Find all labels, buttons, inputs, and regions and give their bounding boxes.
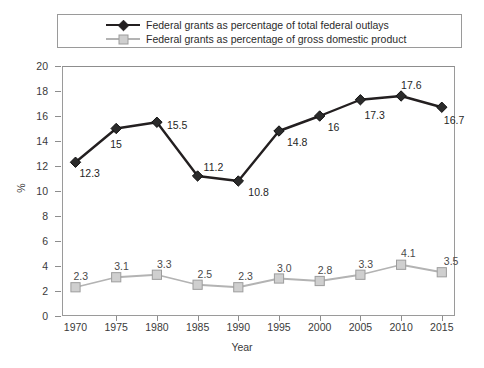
diamond-marker-icon bbox=[315, 111, 325, 121]
data-label: 3.1 bbox=[114, 261, 129, 272]
data-label: 12.3 bbox=[80, 168, 100, 179]
data-label: 10.8 bbox=[248, 187, 268, 198]
data-label: 2.5 bbox=[198, 269, 213, 280]
data-label: 3.3 bbox=[358, 259, 373, 270]
square-marker-icon bbox=[397, 260, 406, 269]
data-label: 17.6 bbox=[401, 80, 421, 91]
diamond-marker-icon bbox=[437, 102, 447, 112]
data-label: 2.3 bbox=[238, 271, 253, 282]
data-label: 14.8 bbox=[287, 137, 307, 148]
data-label: 16 bbox=[328, 122, 340, 133]
square-marker-icon bbox=[234, 283, 243, 292]
square-marker-icon bbox=[71, 283, 80, 292]
data-label: 16.7 bbox=[444, 115, 464, 126]
data-label: 3.3 bbox=[157, 259, 172, 270]
data-label: 11.2 bbox=[204, 162, 224, 173]
series-line bbox=[76, 96, 442, 181]
data-label: 15.5 bbox=[167, 120, 187, 131]
square-marker-icon bbox=[112, 273, 121, 282]
data-label: 3.0 bbox=[277, 263, 292, 274]
square-marker-icon bbox=[193, 280, 202, 289]
diamond-marker-icon bbox=[355, 95, 365, 105]
data-label: 2.8 bbox=[318, 265, 333, 276]
series-layer bbox=[0, 0, 484, 368]
line-chart: Federal grants as percentage of total fe… bbox=[0, 0, 484, 368]
data-label: 3.5 bbox=[444, 256, 459, 267]
square-marker-icon bbox=[315, 276, 324, 285]
square-marker-icon bbox=[437, 268, 446, 277]
square-marker-icon bbox=[356, 270, 365, 279]
data-label: 4.1 bbox=[401, 248, 416, 259]
x-axis-title: Year bbox=[0, 341, 484, 353]
square-marker-icon bbox=[152, 270, 161, 279]
square-marker-icon bbox=[274, 274, 283, 283]
diamond-marker-icon bbox=[396, 91, 406, 101]
data-label: 17.3 bbox=[364, 110, 384, 121]
series-line bbox=[76, 265, 442, 288]
data-label: 15 bbox=[110, 139, 122, 150]
data-label: 2.3 bbox=[74, 271, 89, 282]
y-axis-title: % bbox=[15, 179, 27, 197]
